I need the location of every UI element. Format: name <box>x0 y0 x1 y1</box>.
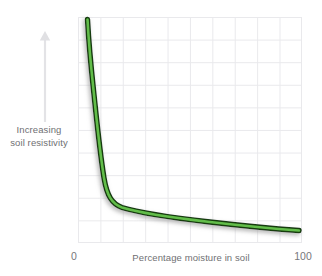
up-arrow-icon <box>36 28 54 122</box>
plot-right-border <box>301 17 302 243</box>
x-tick-label-min: 0 <box>66 250 82 262</box>
x-axis-label: Percentage moisture in soil <box>96 252 286 264</box>
plot-bottom-border <box>78 242 302 243</box>
plot-area-grid <box>78 17 302 243</box>
soil-resistivity-chart: Increasing soil resistivity Percentage m… <box>0 0 322 276</box>
y-axis-label-line2: soil resistivity <box>2 137 76 150</box>
y-axis-label: Increasing soil resistivity <box>2 124 76 149</box>
y-axis-label-line1: Increasing <box>2 124 76 137</box>
x-tick-label-max: 100 <box>286 250 320 262</box>
